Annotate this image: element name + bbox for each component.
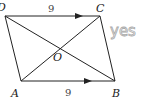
vertex-label-a: A [10,87,19,99]
vertex-label-b: B [111,87,120,99]
arrow-icon-dc [75,13,83,19]
intersection-label-o: O [53,51,62,64]
side-length-ab: 9 [65,87,71,98]
side-length-dc: 9 [48,3,54,14]
handwritten-annotation: yes [110,22,136,40]
arrow-icon-ab [84,78,92,84]
parallelogram-diagram: D C A B O 9 9 yes [0,0,148,99]
vertex-label-c: C [96,2,105,15]
diagonal-ac [21,16,100,81]
side-da [5,16,21,81]
vertex-label-d: D [0,1,6,14]
